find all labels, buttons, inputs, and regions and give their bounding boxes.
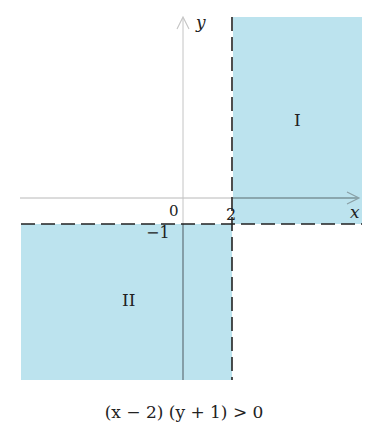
x-axis-label: x <box>350 202 360 222</box>
y-axis-label: y <box>195 12 206 32</box>
caption: (x − 2) (y + 1) > 0 <box>105 402 264 422</box>
inequality-graph: y x 0 2 −1 I II (x − 2) (y + 1) > 0 <box>0 0 369 442</box>
region-II-label: II <box>122 290 135 310</box>
tick-label-x-2: 2 <box>226 205 236 224</box>
origin-label: 0 <box>169 202 179 220</box>
region-I-label: I <box>294 110 301 130</box>
tick-label-y-neg1: −1 <box>146 223 170 242</box>
